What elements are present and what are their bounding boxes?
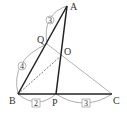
point-label-o: O [64, 46, 71, 57]
svg-text:3: 3 [48, 16, 52, 25]
segment-bo [18, 55, 62, 94]
ratio-label-bp: 2 [32, 99, 40, 108]
point-label-p: P [52, 97, 58, 108]
segment-ab [18, 6, 67, 94]
svg-text:2: 2 [34, 99, 38, 108]
point-label-b: B [9, 95, 16, 106]
geometry-diagram: 3 4 2 3 A Q O B P C [0, 0, 127, 116]
ratio-label-qb: 4 [18, 62, 26, 71]
ratio-label-aq: 3 [46, 16, 54, 25]
point-label-q: Q [37, 34, 45, 45]
point-label-a: A [70, 1, 78, 12]
ratio-label-pc: 3 [82, 99, 90, 108]
svg-text:3: 3 [84, 99, 88, 108]
point-label-c: C [113, 95, 120, 106]
svg-text:4: 4 [20, 62, 24, 71]
